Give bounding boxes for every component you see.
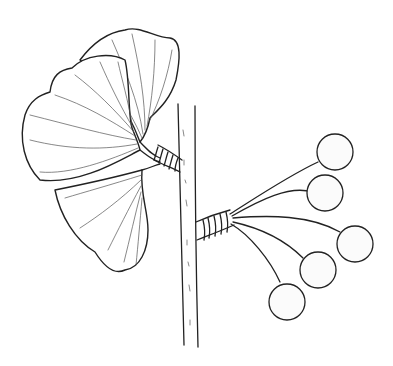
ginkgo-illustration: Ginkgo biloba branch with leaves and see… bbox=[0, 0, 393, 366]
seed-spur bbox=[196, 210, 234, 240]
seed-4 bbox=[300, 252, 336, 288]
seed-2 bbox=[307, 175, 343, 211]
ginkgo-drawing bbox=[0, 0, 393, 366]
seed-5 bbox=[269, 284, 305, 320]
stem bbox=[178, 104, 198, 347]
leaf-cluster bbox=[22, 29, 179, 272]
seeds bbox=[269, 134, 373, 320]
leaf-spur bbox=[140, 142, 182, 172]
seed-3 bbox=[337, 226, 373, 262]
seed-1 bbox=[317, 134, 353, 170]
leaf-middle bbox=[22, 56, 140, 181]
